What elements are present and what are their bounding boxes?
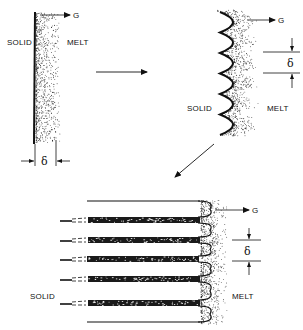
panel-elongated-cells: G SOLID MELT δ bbox=[30, 200, 261, 324]
delta-dimension: δ bbox=[232, 228, 261, 275]
solid-label: SOLID bbox=[187, 104, 212, 113]
gradient-label: G bbox=[278, 16, 284, 25]
panel-cellular: G SOLID MELT δ bbox=[187, 10, 300, 137]
gradient-label: G bbox=[252, 206, 258, 215]
panel-planar: G SOLID MELT δ bbox=[7, 11, 89, 168]
delta-dimension: δ bbox=[263, 38, 300, 88]
delta-label: δ bbox=[41, 155, 48, 168]
delta-dimension: δ bbox=[21, 140, 70, 168]
solidification-diagram: G SOLID MELT δ G SOLID MELT δ bbox=[0, 0, 303, 330]
melt-label: MELT bbox=[267, 104, 289, 113]
solute-boundary-layer bbox=[36, 13, 61, 143]
planar-interface bbox=[34, 12, 35, 144]
delta-label: δ bbox=[287, 57, 294, 70]
melt-label: MELT bbox=[232, 292, 254, 301]
arrow-down-left-icon bbox=[175, 144, 214, 177]
solid-label: SOLID bbox=[30, 292, 55, 301]
delta-label: δ bbox=[244, 245, 251, 258]
gradient-label: G bbox=[73, 11, 79, 20]
melt-label: MELT bbox=[67, 38, 89, 47]
cell-walls bbox=[60, 201, 211, 322]
scalloped-interface bbox=[220, 12, 233, 135]
solid-label: SOLID bbox=[7, 38, 32, 47]
